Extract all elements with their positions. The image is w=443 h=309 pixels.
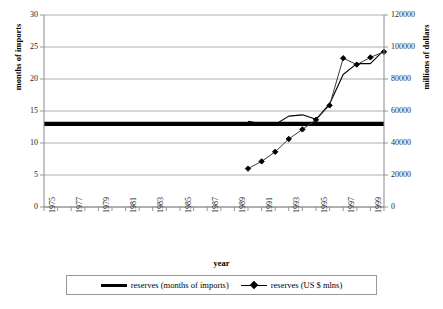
plot-area — [0, 0, 443, 309]
x-axis-tick-label: 1975 — [48, 197, 57, 213]
x-axis-tick-label: 1987 — [211, 197, 220, 213]
chart-legend: reserves (months of imports) reserves (U… — [66, 275, 377, 295]
legend-label-reserves-months: reserves (months of imports) — [131, 280, 229, 290]
gridlines — [44, 15, 384, 207]
x-axis-tick-label: 1999 — [374, 197, 383, 213]
legend-item-reserves-usd: reserves (US $ mlns) — [241, 280, 343, 290]
y-axis-right-tick-label: 20000 — [391, 170, 411, 179]
y-axis-left-tick-label: 25 — [8, 42, 38, 51]
y-axis-right-tick-label: 0 — [391, 202, 395, 211]
x-axis-tick-label: 1989 — [238, 197, 247, 213]
y-axis-right-tick-label: 40000 — [391, 138, 411, 147]
y-axis-left-tick-label: 30 — [8, 10, 38, 19]
x-axis-tick-label: 1983 — [156, 197, 165, 213]
x-axis-tick-label: 1981 — [129, 197, 138, 213]
y-axis-right-tick-label: 100000 — [391, 42, 415, 51]
y-axis-left-ticks — [40, 15, 44, 207]
x-axis-tick-label: 1977 — [75, 197, 84, 213]
x-axis-tick-label: 1991 — [265, 197, 274, 213]
x-axis-tick-label: 1995 — [320, 197, 329, 213]
x-axis-tick-label: 1993 — [292, 197, 301, 213]
x-axis-tick-label: 1985 — [184, 197, 193, 213]
legend-item-reserves-months: reserves (months of imports) — [101, 280, 229, 290]
y-axis-left-tick-label: 20 — [8, 74, 38, 83]
y-axis-right-tick-label: 60000 — [391, 106, 411, 115]
x-axis-tick-label: 1997 — [347, 197, 356, 213]
y-axis-left-tick-label: 10 — [8, 138, 38, 147]
y-axis-right-tick-label: 120000 — [391, 10, 415, 19]
y-axis-left-tick-label: 5 — [8, 170, 38, 179]
y-axis-right-tick-label: 80000 — [391, 74, 411, 83]
y-axis-right-ticks — [384, 15, 388, 207]
chart-figure: months of imports millions of dollars ye… — [0, 0, 443, 309]
y-axis-left-tick-label: 15 — [8, 106, 38, 115]
thick-line-icon — [101, 284, 127, 287]
diamond-line-icon — [241, 282, 267, 289]
y-axis-left-tick-label: 0 — [8, 202, 38, 211]
data-series-layer — [44, 49, 387, 171]
x-axis-tick-label: 1979 — [102, 197, 111, 213]
legend-label-reserves-usd: reserves (US $ mlns) — [271, 280, 343, 290]
